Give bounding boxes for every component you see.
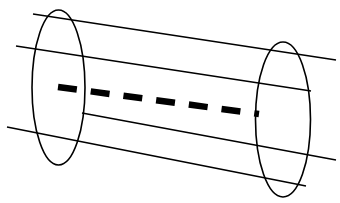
cylinder-diagram-svg <box>0 0 340 203</box>
figure-canvas <box>0 0 340 203</box>
